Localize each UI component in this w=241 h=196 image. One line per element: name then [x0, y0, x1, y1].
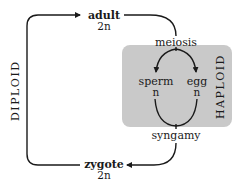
- life-cycle-diagram: adult 2n meiosis sperm n egg n syngamy z…: [0, 0, 241, 196]
- syngamy-label: syngamy: [150, 130, 202, 141]
- syngamy-to-zygote-arrow: [127, 143, 176, 165]
- sperm-node: sperm n: [136, 76, 176, 98]
- meiosis-label: meiosis: [152, 37, 200, 48]
- egg-node: egg n: [184, 76, 210, 98]
- meiosis-to-sperm-arrow: [156, 49, 176, 72]
- adult-to-meiosis-line: [124, 15, 176, 36]
- egg-ploidy: n: [184, 87, 210, 98]
- gametes-to-syngamy-line: [155, 99, 197, 126]
- sperm-ploidy: n: [136, 87, 176, 98]
- zygote-node: zygote 2n: [82, 159, 126, 181]
- zygote-ploidy: 2n: [82, 170, 126, 181]
- diploid-arrow: [27, 15, 80, 165]
- meiosis-to-egg-arrow: [176, 49, 196, 72]
- adult-node: adult 2n: [84, 10, 124, 32]
- adult-ploidy: 2n: [84, 21, 124, 32]
- haploid-phase-label: HAPLOID: [214, 55, 226, 119]
- diploid-phase-label: DIPLOID: [9, 61, 21, 121]
